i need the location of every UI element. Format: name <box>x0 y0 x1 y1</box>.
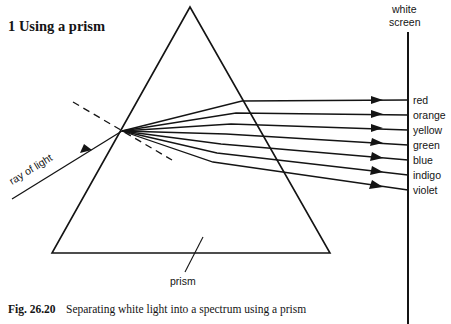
spectrum-label-yellow: yellow <box>413 124 443 136</box>
white-screen-label-line1: white <box>391 3 417 15</box>
prism-leader-line <box>185 237 203 272</box>
spectrum-label-indigo: indigo <box>413 169 441 181</box>
prism-label: prism <box>170 275 196 287</box>
ray-indigo-arrowhead <box>370 166 383 175</box>
ray-orange-arrowhead <box>371 110 383 118</box>
spectrum-label-red: red <box>413 94 428 106</box>
ray-of-light-label: ray of light <box>7 151 55 187</box>
ray-yellow <box>122 124 408 131</box>
ray-red <box>122 100 408 131</box>
spectrum-label-green: green <box>413 139 440 151</box>
spectrum-label-orange: orange <box>413 109 446 121</box>
caption-figure-number: Fig. 26.20 <box>8 303 56 316</box>
prism-dispersion-diagram: 1 Using a prism white <box>0 0 451 324</box>
prism-triangle <box>52 7 330 253</box>
ray-green-arrowhead <box>370 138 383 146</box>
ray-blue-arrowhead <box>370 152 383 161</box>
ray-violet-arrowhead <box>369 180 383 189</box>
caption-text: Separating white light into a spectrum u… <box>66 303 306 316</box>
incoming-ray-arrowhead <box>80 144 92 153</box>
white-screen-label-line2: screen <box>389 16 421 28</box>
spectrum-label-blue: blue <box>413 154 433 166</box>
ray-yellow-arrowhead <box>371 124 383 132</box>
page-title: 1 Using a prism <box>8 18 105 34</box>
figure-page: 1 Using a prism white <box>0 0 451 324</box>
ray-red-arrowhead <box>371 96 383 104</box>
spectrum-label-violet: violet <box>413 184 438 196</box>
